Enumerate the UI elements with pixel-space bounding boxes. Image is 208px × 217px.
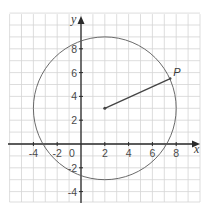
x-tick-label: -2: [53, 147, 62, 159]
point-p: [169, 77, 171, 79]
y-axis-arrow-icon: [78, 16, 85, 24]
origin-label: 0: [69, 147, 75, 159]
y-tick-label: 4: [71, 90, 77, 102]
x-axis-label: x: [193, 142, 200, 156]
y-tick-label: -4: [68, 186, 77, 198]
x-tick-label: 6: [149, 147, 155, 159]
point-p-label: P: [173, 66, 181, 78]
coordinate-diagram: x y 0 -4-224688642-2-4 P: [0, 0, 208, 217]
x-tick-label: 2: [102, 147, 108, 159]
radius-line: [105, 79, 170, 109]
y-tick-label: 6: [71, 67, 77, 79]
x-tick-label: 4: [126, 147, 132, 159]
y-tick-label: 2: [71, 114, 77, 126]
center-point: [103, 107, 106, 110]
x-tick-label: -4: [29, 147, 38, 159]
y-axis-label: y: [70, 12, 77, 26]
x-tick-label: 8: [173, 147, 179, 159]
